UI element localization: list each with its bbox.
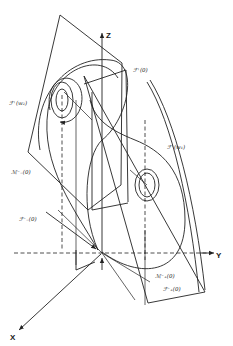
label-F-plus-w2: ℱ⁺(w₂) [9,100,27,106]
y-axis: Y [14,251,222,260]
label-F-minus-0: ℱ⁻₋(0) [19,216,37,222]
x-axis-label: X [10,333,16,342]
z-axis-label: Z [106,31,111,40]
phase-space-diagram: Z Y X ℱ⁺(0) ℱ⁺(w₁) ℱ⁺ [0,0,233,346]
left-surface-plane [28,15,122,210]
label-F-plus-plus-0: ℱ⁻₊(0) [163,286,181,292]
y-axis-label: Y [216,251,222,260]
label-M-minus-0: ℳ⁻₋(0) [11,169,31,175]
x-axis: X [10,254,101,342]
label-F-plus-w1: ℱ⁺(w₁) [167,144,185,150]
periodic-orbit-w2 [49,78,92,122]
label-M-plus-0: ℳ⁻₊(0) [155,273,175,279]
z-axis: Z [102,31,111,253]
label-F-plus-0: ℱ⁺(0) [133,67,148,73]
periodic-orbit-w1 [130,169,159,201]
